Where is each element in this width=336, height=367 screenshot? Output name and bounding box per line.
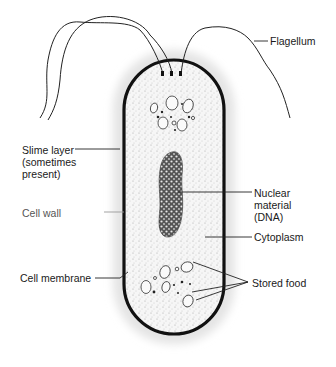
label-cell-membrane: Cell membrane <box>20 272 91 284</box>
cell-illustration <box>0 0 336 367</box>
label-cytoplasm: Cytoplasm <box>254 231 304 243</box>
label-slime-layer: Slime layer (sometimes present) <box>22 144 76 180</box>
nuclear-material <box>159 152 183 237</box>
bacterial-cell-diagram: Flagellum Slime layer (sometimes present… <box>0 0 336 367</box>
label-stored-food: Stored food <box>252 277 306 289</box>
label-flagellum: Flagellum <box>270 35 316 47</box>
label-cell-wall: Cell wall <box>22 207 61 219</box>
label-nuclear-material: Nuclear material (DNA) <box>254 187 291 223</box>
